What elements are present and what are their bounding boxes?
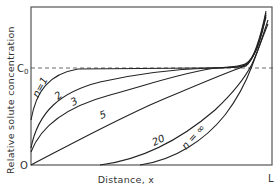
curve-label-n-5: 5 xyxy=(98,108,108,121)
x-axis-label: Distance, x xyxy=(98,174,155,185)
curve-label-n-1: n=1 xyxy=(30,75,50,99)
y-tick-c0: C0 xyxy=(17,63,28,76)
solute-concentration-chart: Relative solute concentration Distance, … xyxy=(0,0,280,188)
curve-n-1 xyxy=(31,11,266,120)
curve-n-2 xyxy=(31,13,266,148)
y-axis-label: Relative solute concentration xyxy=(5,26,16,174)
x-tick-L: L xyxy=(268,173,274,184)
curve-n-5 xyxy=(31,17,266,165)
curve-label-n-2: 2 xyxy=(52,89,64,102)
curve-label-n-20: 20 xyxy=(150,132,166,147)
y-tick-origin: O xyxy=(20,160,28,171)
curve-label-n-3: 3 xyxy=(69,95,80,108)
curve-n-3 xyxy=(31,15,266,152)
